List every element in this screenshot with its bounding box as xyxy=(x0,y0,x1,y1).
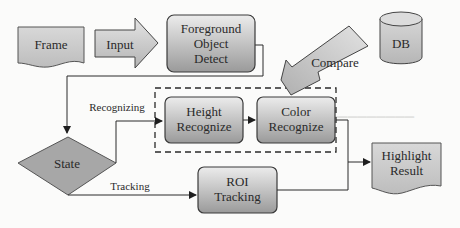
foreground-label-line3: Detect xyxy=(167,51,255,66)
diagram-canvas: ▁▁▁▁▁▁▁▁▁▁▁▁ xyxy=(0,0,460,228)
foreground-label-line2: Object xyxy=(167,36,255,51)
state-label: State xyxy=(18,156,116,171)
height-label-line1: Height xyxy=(165,104,243,119)
frame-label: Frame xyxy=(18,37,84,52)
color-label-line2: Recognize xyxy=(257,119,335,134)
highlight-label-line2: Result xyxy=(372,163,441,178)
height-label-line2: Recognize xyxy=(165,119,243,134)
input-label: Input xyxy=(95,37,145,52)
height-box: Height Recognize xyxy=(165,104,243,134)
db-label: DB xyxy=(380,36,422,51)
recognizing-label: Recognizing xyxy=(86,101,148,114)
roi-box: ROI Tracking xyxy=(198,174,277,204)
color-label-line1: Color xyxy=(257,104,335,119)
highlight-label-line1: Highlight xyxy=(372,148,441,163)
foreground-label-line1: Foreground xyxy=(167,21,255,36)
foreground-box: Foreground Object Detect xyxy=(167,21,255,66)
compare-label: Compare xyxy=(305,55,365,70)
tracking-label: Tracking xyxy=(105,180,155,193)
roi-label-line1: ROI xyxy=(198,174,277,189)
highlight-result: Highlight Result xyxy=(372,148,441,178)
color-box: Color Recognize xyxy=(257,104,335,134)
roi-label-line2: Tracking xyxy=(198,189,277,204)
